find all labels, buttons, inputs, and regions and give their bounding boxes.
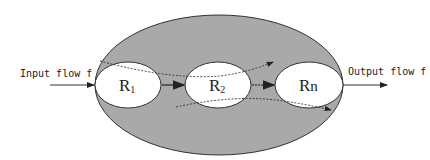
output-flow-label: Output flow f	[348, 66, 426, 77]
flow-diagram: Input flow f Output flow f R1 R2 Rn	[0, 0, 430, 160]
input-flow-label: Input flow f	[20, 68, 92, 79]
region-rn-label: Rn	[299, 76, 318, 95]
